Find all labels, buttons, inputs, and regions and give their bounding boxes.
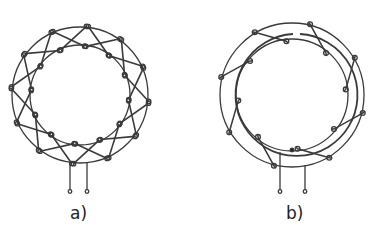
return-conductor-b <box>236 34 358 156</box>
winding-turn <box>109 56 142 66</box>
core-a-inner <box>30 45 130 145</box>
winding-turn <box>86 39 120 47</box>
core-b-outer <box>220 23 364 167</box>
winding-turn <box>88 26 108 55</box>
winding-turn <box>52 135 72 164</box>
winding-turn <box>252 32 287 43</box>
terminal-b-1 <box>278 190 282 194</box>
winding-turn <box>17 90 32 122</box>
core-b-inner <box>236 39 348 151</box>
winding-turn <box>11 67 40 87</box>
figure-label-a: a) <box>70 203 87 223</box>
winding-turn <box>53 32 85 47</box>
terminal-b-2 <box>303 190 307 194</box>
winding-turn <box>17 124 50 134</box>
winding-turn <box>129 68 144 100</box>
diagram-canvas <box>0 0 371 231</box>
winding-turn <box>229 99 240 134</box>
junction-dot-b <box>290 148 294 152</box>
winding-turn <box>40 144 74 152</box>
core-a-outer <box>12 27 148 163</box>
toroid-a <box>9 24 151 193</box>
toroid-b <box>219 22 365 193</box>
winding-turn <box>41 32 51 65</box>
terminal-a-1 <box>68 190 72 194</box>
winding-turn <box>24 55 32 89</box>
winding-turn <box>109 124 119 157</box>
winding-turn <box>129 101 137 135</box>
winding-turn <box>75 144 107 159</box>
winding-turn <box>120 103 149 123</box>
terminal-a-2 <box>85 190 89 194</box>
figure-label-b: b) <box>286 203 303 223</box>
